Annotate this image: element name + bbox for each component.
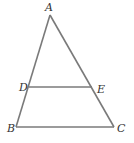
segment-ac bbox=[50, 15, 114, 127]
label-a: A bbox=[44, 1, 53, 14]
label-d: D bbox=[18, 81, 28, 94]
segment-ab bbox=[16, 15, 50, 127]
label-c: C bbox=[117, 122, 126, 135]
triangle-diagram: A D E B C bbox=[0, 0, 134, 143]
label-b: B bbox=[6, 122, 15, 135]
label-e: E bbox=[96, 83, 105, 96]
